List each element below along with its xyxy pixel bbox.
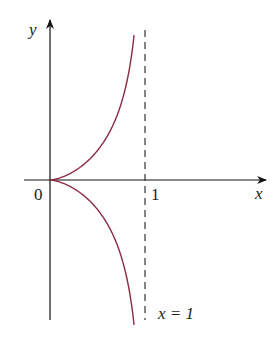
upper-branch-curve [50, 35, 134, 180]
origin-label: 0 [34, 185, 43, 204]
chart-canvas: y x 0 1 x = 1 [0, 0, 277, 342]
asymptote-label: x = 1 [157, 304, 194, 323]
x-tick-label-1: 1 [151, 185, 160, 204]
y-axis-label: y [27, 20, 37, 39]
lower-branch-curve [50, 180, 134, 325]
x-axis-label: x [254, 184, 263, 203]
chart: y x 0 1 x = 1 [0, 0, 277, 342]
